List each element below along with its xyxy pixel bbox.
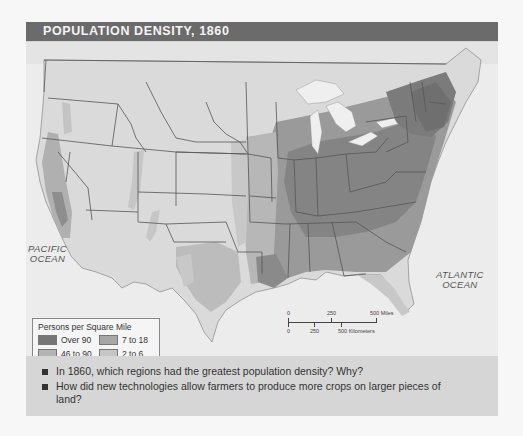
legend-item-over-90: Over 90 xyxy=(38,334,93,345)
legend-item-46-to-90: 46 to 90 xyxy=(38,348,93,356)
legend-swatch xyxy=(38,335,57,345)
legend-item-2-to-6: 2 to 6 xyxy=(99,348,154,356)
scale-tick xyxy=(341,323,342,327)
legend-label: 7 to 18 xyxy=(122,335,148,345)
pacific-label-line2: OCEAN xyxy=(28,254,67,264)
scale-label-miles-0: 0 xyxy=(287,310,290,316)
legend-item-7-to-18: 7 to 18 xyxy=(99,334,154,345)
legend-swatch xyxy=(99,349,118,357)
scale-tick xyxy=(288,323,289,327)
scale-tick xyxy=(331,318,332,322)
scale-bar: 0 250 500 Miles 0 250 500 Kilometers xyxy=(288,310,418,342)
atlantic-ocean-label: ATLANTIC OCEAN xyxy=(436,270,484,290)
scale-line xyxy=(288,322,377,323)
map-graphic xyxy=(26,42,498,356)
legend-label: 2 to 6 xyxy=(122,349,143,357)
question-text: How did new technologies allow farmers t… xyxy=(56,380,442,406)
us-map-1860: PACIFIC OCEAN ATLANTIC OCEAN Persons per… xyxy=(26,42,498,356)
scale-tick xyxy=(314,323,315,327)
scale-label-km-500: 500 Kilometers xyxy=(338,328,375,334)
title-bar: POPULATION DENSITY, 1860 xyxy=(26,22,498,41)
legend-title: Persons per Square Mile xyxy=(38,322,154,332)
scale-tick xyxy=(376,318,377,322)
scale-label-miles-500: 500 Miles xyxy=(370,310,394,316)
question-item: In 1860, which regions had the greatest … xyxy=(42,365,498,378)
legend: Persons per Square Mile Over 90 7 to 18 … xyxy=(32,318,160,356)
scale-label-miles-250: 250 xyxy=(327,310,336,316)
question-item: How did new technologies allow farmers t… xyxy=(42,380,442,406)
scale-tick xyxy=(288,318,289,322)
atlantic-label-line2: OCEAN xyxy=(436,280,484,290)
legend-label: 46 to 90 xyxy=(61,349,92,357)
pacific-ocean-label: PACIFIC OCEAN xyxy=(28,244,67,264)
legend-swatch xyxy=(99,335,118,345)
scale-label-km-250: 250 xyxy=(310,328,319,334)
question-text: In 1860, which regions had the greatest … xyxy=(56,365,363,378)
legend-grid: Over 90 7 to 18 46 to 90 2 to 6 19 to 45 xyxy=(38,334,154,356)
legend-label: Over 90 xyxy=(61,335,91,345)
scale-label-km-0: 0 xyxy=(287,328,290,334)
legend-swatch xyxy=(38,349,57,357)
questions-box: In 1860, which regions had the greatest … xyxy=(26,358,498,416)
map-title: POPULATION DENSITY, 1860 xyxy=(43,24,229,38)
map-figure: POPULATION DENSITY, 1860 xyxy=(26,22,498,416)
square-bullet-icon xyxy=(42,384,48,390)
square-bullet-icon xyxy=(42,369,48,375)
